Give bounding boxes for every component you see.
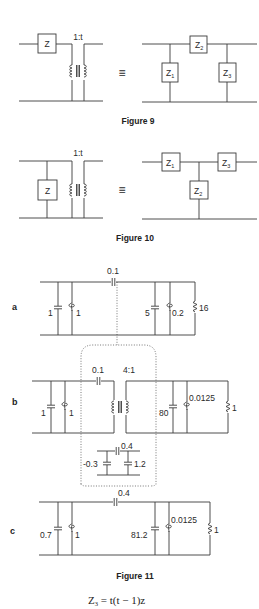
transformer-ratio-label: 4:1 <box>123 365 135 375</box>
load-res-value: 16 <box>199 303 209 313</box>
circuit-c-label: c <box>10 526 15 536</box>
equation: Z3 = t(t − 1)z <box>88 594 145 607</box>
pi-series-cap-value: 0.4 <box>121 441 133 451</box>
equivalence-symbol: ≡ <box>118 183 125 197</box>
circuit-b-label: b <box>12 397 18 407</box>
load-resistor-icon <box>193 301 197 312</box>
shunt-capacitor-icon <box>151 306 159 309</box>
turns-ratio-label: 1:t <box>73 148 83 158</box>
shunt-cap-left-value: 1 <box>48 308 53 318</box>
turns-ratio-label: 1:t <box>73 32 83 42</box>
shunt-ind-right-value: 0.2 <box>172 308 184 318</box>
circuit-figures: Z 1:t ≡ Z2 Z1 Z3 Figure 9 <box>0 0 259 609</box>
shunt-inductor-icon <box>69 524 74 532</box>
shunt-inductor-icon <box>69 303 74 311</box>
shunt-cap-right-value: 80 <box>159 408 169 418</box>
figure-9: Z 1:t ≡ Z2 Z1 Z3 Figure 9 <box>19 32 257 126</box>
shunt-ind-left-value: 1 <box>69 408 74 418</box>
series-capacitor-icon <box>116 447 119 455</box>
equivalence-symbol: ≡ <box>118 66 125 80</box>
shunt-ind-left-value: 1 <box>76 308 81 318</box>
series-cap-value: 0.4 <box>118 488 130 498</box>
shunt-inductor-icon <box>184 402 189 410</box>
series-capacitor-icon <box>114 498 117 506</box>
circuit-b: b 0.1 4:1 1 1 <box>12 365 237 475</box>
fig9-left-circuit: Z 1:t <box>19 32 103 101</box>
series-capacitor-icon <box>112 278 115 286</box>
load-res-value: 1 <box>232 403 237 413</box>
shunt-capacitor-icon <box>169 405 177 408</box>
load-res-value: 1 <box>214 525 219 535</box>
shunt-capacitor-icon <box>124 462 132 465</box>
shunt-cap-right-value: 5 <box>145 308 150 318</box>
circuit-c: c 0.4 0.7 1 81.2 0.0125 <box>10 488 219 555</box>
figure-10: Z 1:t ≡ Z1 Z3 Z2 Figure 10 <box>19 148 257 243</box>
figure-10-caption: Figure 10 <box>116 233 154 243</box>
shunt-inductor-icon <box>166 524 171 532</box>
ideal-transformer-icon <box>112 401 129 413</box>
load-resistor-icon <box>208 523 212 534</box>
impedance-z-label: Z <box>45 186 50 196</box>
figure-11-caption: Figure 11 <box>116 571 154 581</box>
shunt-cap-right-value: 81.2 <box>131 530 148 540</box>
shunt-capacitor-icon <box>47 405 55 408</box>
figure-9-caption: Figure 9 <box>121 116 154 126</box>
series-cap-value: 0.1 <box>92 365 104 375</box>
shunt-ind-right-value: 0.0125 <box>171 515 197 525</box>
shunt-capacitor-icon <box>54 306 62 309</box>
shunt-capacitor-icon <box>151 527 159 530</box>
ideal-transformer-icon <box>70 65 87 77</box>
load-resistor-icon <box>226 401 230 412</box>
shunt-capacitor-icon <box>54 527 62 530</box>
figure-11: a 0.1 1 1 5 0.2 <box>10 266 237 581</box>
shunt-ind-right-value: 0.0125 <box>189 393 215 403</box>
circuit-a: a 0.1 1 1 5 0.2 <box>12 266 209 335</box>
circuit-a-label: a <box>12 302 18 312</box>
series-capacitor-icon <box>97 377 100 385</box>
impedance-z-label: Z <box>44 39 49 49</box>
pi-shunt-cap-left-value: -0.3 <box>83 459 98 469</box>
pi-network: 0.4 -0.3 1.2 <box>83 441 146 475</box>
series-cap-value: 0.1 <box>107 266 119 276</box>
shunt-capacitor-icon <box>103 462 111 465</box>
fig9-right-network: Z2 Z1 Z3 <box>142 36 257 102</box>
shunt-inductor-icon <box>62 402 67 410</box>
shunt-cap-left-value: 1 <box>41 408 46 418</box>
pi-shunt-cap-right-value: 1.2 <box>134 459 146 469</box>
ideal-transformer-icon <box>70 184 87 196</box>
shunt-cap-left-value: 0.7 <box>40 530 52 540</box>
fig10-right-network: Z1 Z3 Z2 <box>142 153 257 219</box>
shunt-ind-left-value: 1 <box>75 530 80 540</box>
fig10-left-circuit: Z 1:t <box>19 148 103 218</box>
